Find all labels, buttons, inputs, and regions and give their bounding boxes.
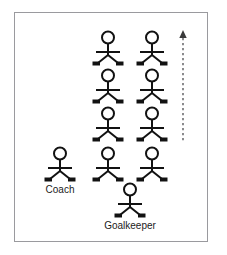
stick-figure-player [91, 30, 125, 66]
stick-figure-player [91, 146, 125, 182]
stick-figure-player [135, 106, 169, 142]
coach-label: Coach [46, 184, 75, 196]
goalkeeper-label: Goalkeeper [104, 220, 156, 232]
stick-figure-player [91, 106, 125, 142]
diagram-canvas: Coach Goalkeeper [0, 0, 227, 255]
stick-figure-goalkeeper [113, 182, 147, 218]
stick-figure-coach [43, 146, 77, 182]
stick-figure-player [91, 68, 125, 104]
direction-arrow-up [173, 26, 193, 150]
stick-figure-player [135, 30, 169, 66]
stick-figure-player [135, 68, 169, 104]
stick-figure-player [135, 146, 169, 182]
